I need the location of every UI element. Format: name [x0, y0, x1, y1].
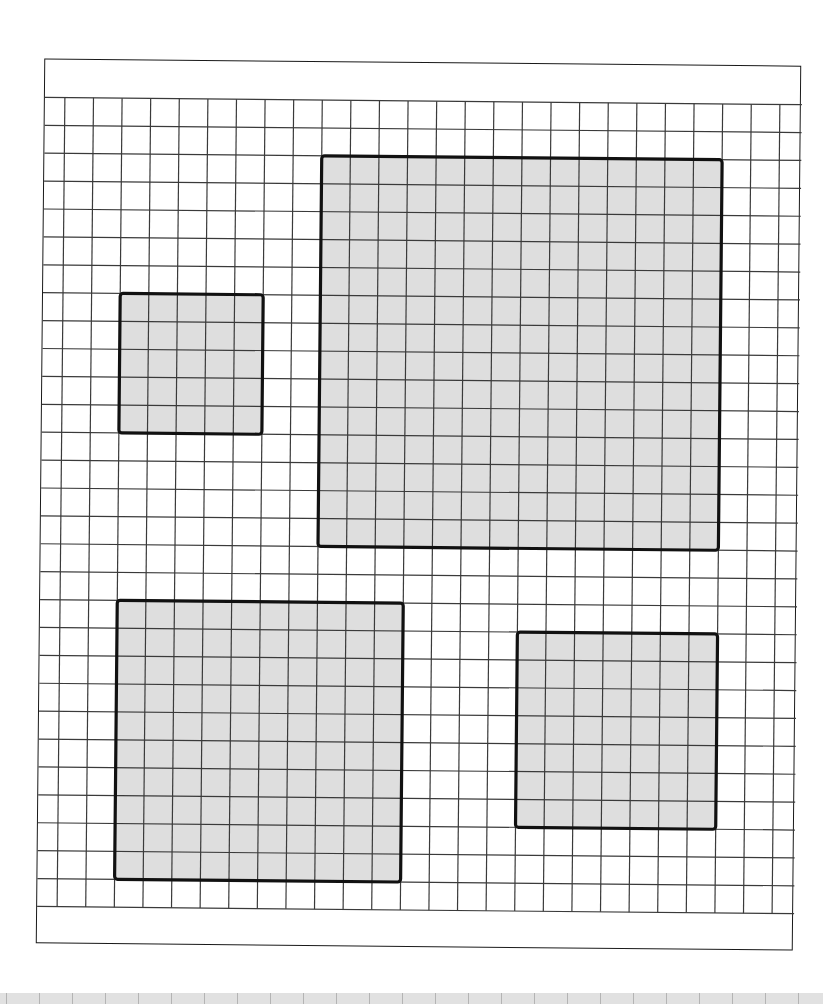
- ruler-tick: [534, 993, 535, 1004]
- ruler-tick: [567, 993, 568, 1004]
- ruler-tick: [468, 993, 469, 1004]
- ruler-tick: [6, 993, 7, 1004]
- grid-vertical-line: [86, 98, 94, 907]
- grid-horizontal-line: [40, 572, 797, 579]
- ruler-tick: [765, 993, 766, 1004]
- grid-vertical-line: [57, 98, 65, 907]
- grid-horizontal-line: [45, 125, 802, 132]
- grid-horizontal-line: [37, 906, 794, 913]
- ruler-tick: [402, 993, 403, 1004]
- ruler-tick: [732, 993, 733, 1004]
- ruler-tick: [699, 993, 700, 1004]
- ruler-tick: [336, 993, 337, 1004]
- small-square-fill: [119, 293, 263, 434]
- grid-drawing: [37, 59, 802, 951]
- ruler-tick: [666, 993, 667, 1004]
- bottom-ruler-strip: [0, 993, 823, 1004]
- ruler-tick: [39, 993, 40, 1004]
- ruler-tick: [600, 993, 601, 1004]
- ruler-tick: [72, 993, 73, 1004]
- grid-vertical-line: [743, 104, 751, 913]
- grid-vertical-line: [772, 104, 780, 913]
- ruler-tick: [270, 993, 271, 1004]
- grid-paper-sheet: [36, 58, 801, 950]
- ruler-tick: [303, 993, 304, 1004]
- ruler-tick: [138, 993, 139, 1004]
- ruler-tick: [633, 993, 634, 1004]
- grid-horizontal-line: [45, 97, 802, 104]
- ruler-tick: [171, 993, 172, 1004]
- ruler-tick: [237, 993, 238, 1004]
- ruler-tick: [105, 993, 106, 1004]
- ruler-tick: [501, 993, 502, 1004]
- ruler-tick: [369, 993, 370, 1004]
- ruler-tick: [798, 993, 799, 1004]
- ruler-tick: [435, 993, 436, 1004]
- ruler-tick: [204, 993, 205, 1004]
